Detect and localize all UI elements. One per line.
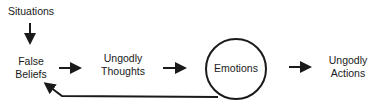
node-false-beliefs: False Beliefs: [13, 55, 49, 80]
node-situations: Situations: [8, 5, 54, 18]
node-ungodly-actions: Ungodly Actions: [325, 54, 371, 79]
situations-label: Situations: [8, 5, 54, 17]
ungodly-thoughts-line2: Thoughts: [95, 65, 151, 78]
arrow-feedback-emotions-to-false-beliefs: [46, 84, 218, 97]
emotions-label: Emotions: [214, 62, 258, 74]
node-emotions: Emotions: [206, 62, 266, 75]
ungodly-actions-line1: Ungodly: [325, 54, 371, 67]
false-beliefs-line2: Beliefs: [13, 68, 49, 81]
ungodly-thoughts-line1: Ungodly: [95, 52, 151, 65]
ungodly-actions-line2: Actions: [325, 67, 371, 80]
false-beliefs-line1: False: [13, 55, 49, 68]
node-ungodly-thoughts: Ungodly Thoughts: [95, 52, 151, 77]
